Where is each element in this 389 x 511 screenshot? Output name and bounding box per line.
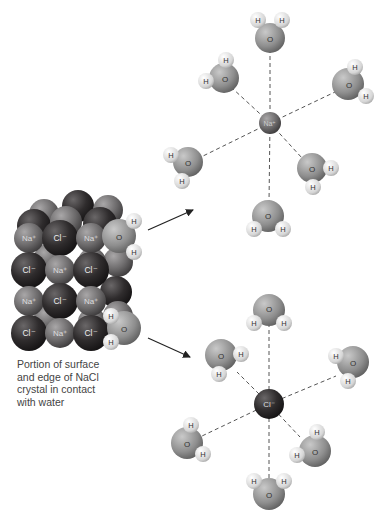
- caption-line: and edge of NaCl: [17, 371, 147, 384]
- svg-text:O: O: [222, 75, 228, 84]
- svg-text:H: H: [333, 352, 338, 361]
- water-molecule: O H H: [328, 346, 369, 389]
- svg-text:Na⁺: Na⁺: [53, 266, 67, 275]
- crystal-row-2: Cl⁻ Na⁺ Cl⁻: [11, 252, 109, 288]
- water-molecule: O H H: [163, 147, 203, 189]
- svg-text:H: H: [131, 248, 136, 257]
- water-molecule: O H H: [246, 294, 292, 331]
- hydrated-chloride-ion: O H H O H H O H H O H H: [171, 294, 369, 510]
- svg-text:H: H: [251, 477, 256, 486]
- svg-text:H: H: [363, 92, 368, 101]
- svg-text:Na⁺: Na⁺: [22, 234, 36, 243]
- svg-text:Cl⁻: Cl⁻: [53, 233, 66, 243]
- svg-text:H: H: [108, 312, 113, 321]
- svg-text:H: H: [294, 451, 299, 460]
- svg-text:O: O: [312, 448, 318, 457]
- svg-text:H: H: [223, 56, 228, 65]
- svg-text:O: O: [266, 305, 272, 314]
- svg-text:O: O: [266, 491, 272, 500]
- water-molecule: O H H: [289, 424, 331, 467]
- svg-text:Na⁺: Na⁺: [53, 329, 67, 338]
- arrow-to-chloride: [148, 338, 190, 357]
- water-molecule: O H H: [205, 339, 249, 382]
- crystal-row-3: Na⁺ Cl⁻ Na⁺: [14, 283, 106, 319]
- crystal-row-4: Cl⁻ Na⁺ Cl⁻: [11, 315, 109, 351]
- svg-text:Na⁺: Na⁺: [264, 120, 277, 127]
- crystal-caption: Portion of surface and edge of NaCl crys…: [17, 358, 147, 408]
- svg-text:H: H: [281, 477, 286, 486]
- caption-line: Portion of surface: [17, 358, 147, 371]
- svg-text:H: H: [352, 63, 357, 72]
- arrow-to-sodium: [148, 210, 193, 230]
- svg-text:O: O: [116, 233, 122, 242]
- nacl-dissolution-diagram: Na⁺ Cl⁻ Na⁺ Cl⁻ Na⁺ Cl⁻ Na⁺ Cl⁻ Na⁺ Cl⁻: [0, 0, 389, 511]
- hydrated-sodium-ion: O H H O H H O H H O H H: [163, 12, 374, 237]
- svg-text:Cl⁻: Cl⁻: [22, 328, 35, 338]
- surface-water-lower: O H H: [103, 308, 141, 350]
- svg-text:H: H: [281, 319, 286, 328]
- svg-text:H: H: [238, 350, 243, 359]
- svg-text:O: O: [350, 359, 356, 368]
- svg-text:Cl⁻: Cl⁻: [53, 296, 66, 306]
- svg-text:Na⁺: Na⁺: [84, 234, 98, 243]
- svg-text:Na⁺: Na⁺: [22, 297, 36, 306]
- svg-text:O: O: [185, 159, 191, 168]
- svg-text:H: H: [188, 421, 193, 430]
- svg-text:O: O: [346, 81, 352, 90]
- svg-text:H: H: [179, 177, 184, 186]
- water-molecule: O H H: [246, 200, 291, 237]
- svg-text:H: H: [168, 151, 173, 160]
- svg-text:H: H: [131, 217, 136, 226]
- svg-text:H: H: [310, 183, 315, 192]
- svg-text:H: H: [203, 77, 208, 86]
- svg-text:H: H: [108, 338, 113, 347]
- svg-text:Cl⁻: Cl⁻: [263, 400, 275, 409]
- water-molecule: O H H: [332, 59, 374, 104]
- svg-text:O: O: [218, 352, 224, 361]
- svg-text:O: O: [265, 212, 271, 221]
- svg-text:H: H: [314, 428, 319, 437]
- svg-text:H: H: [251, 225, 256, 234]
- svg-text:Na⁺: Na⁺: [84, 297, 98, 306]
- water-molecule: O H H: [250, 12, 290, 53]
- water-molecule: O H H: [297, 153, 339, 195]
- svg-text:H: H: [345, 377, 350, 386]
- svg-text:Cl⁻: Cl⁻: [84, 265, 97, 275]
- svg-text:H: H: [216, 370, 221, 379]
- svg-text:H: H: [200, 450, 205, 459]
- water-molecule: O H H: [198, 52, 239, 93]
- caption-line: crystal in contact: [17, 383, 147, 396]
- svg-text:H: H: [279, 16, 284, 25]
- svg-text:H: H: [255, 16, 260, 25]
- svg-text:H: H: [251, 319, 256, 328]
- water-molecule: O H H: [171, 417, 211, 462]
- crystal-row-1: Na⁺ Cl⁻ Na⁺: [14, 220, 106, 256]
- svg-text:H: H: [328, 164, 333, 173]
- svg-text:Cl⁻: Cl⁻: [84, 328, 97, 338]
- water-molecule: O H H: [246, 473, 292, 510]
- svg-text:O: O: [267, 35, 273, 44]
- svg-text:O: O: [309, 165, 315, 174]
- svg-text:O: O: [184, 440, 190, 449]
- svg-text:H: H: [280, 225, 285, 234]
- svg-text:Cl⁻: Cl⁻: [22, 265, 35, 275]
- svg-text:O: O: [121, 325, 127, 334]
- nacl-crystal: Na⁺ Cl⁻ Na⁺ Cl⁻ Na⁺ Cl⁻ Na⁺ Cl⁻ Na⁺ Cl⁻: [11, 190, 142, 351]
- caption-line: with water: [17, 396, 147, 409]
